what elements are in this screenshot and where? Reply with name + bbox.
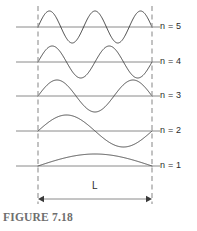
standing-waves-diagram [0,0,197,231]
figure-caption: FIGURE 7.18 [3,211,73,223]
length-arrowhead-right-icon [146,196,152,202]
mode-label-n1: n = 1 [160,160,181,170]
length-dimension-label: L [92,180,98,191]
length-arrowhead-left-icon [38,196,44,202]
mode-label-n5: n = 5 [160,21,181,31]
mode-label-n4: n = 4 [160,56,181,66]
wave-curve-n1 [38,154,152,166]
mode-label-n2: n = 2 [160,125,181,135]
standing-waves-figure: n = 5 n = 4 n = 3 n = 2 n = 1 L FIGURE 7… [0,0,197,231]
mode-label-n3: n = 3 [160,90,181,100]
